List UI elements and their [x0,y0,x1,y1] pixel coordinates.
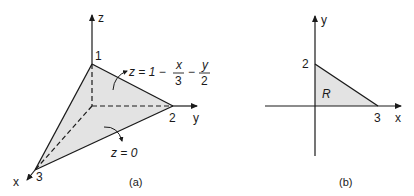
x-axis-2d-label: x [395,111,401,125]
frac2-numerator: y [201,58,209,72]
frac1-numerator: x [175,58,183,72]
figure-b-caption: (b) [339,176,352,188]
base-equation: z = 0 [110,146,138,160]
frac1-denominator: 3 [175,74,182,88]
region-label: R [322,87,331,101]
y-intercept-2d-label: 2 [302,57,309,71]
diagram-canvas: z y x 1 2 3 z = 1 − x 3 − y 2 z = 0 (a) … [0,0,414,196]
figure-a-caption: (a) [129,176,142,188]
x-axis [27,170,35,180]
figure-b-2d-region: y x 2 3 R (b) [265,13,401,188]
plane-face [35,64,173,170]
figure-a-3d-tetrahedron: z y x 1 2 3 z = 1 − x 3 − y 2 z = 0 (a) [13,11,210,189]
z-intercept-label: 1 [95,49,102,63]
z-axis-label: z [98,11,104,25]
x-intercept-label: 3 [36,170,43,184]
plane-equation: z = 1 − x 3 − y 2 [128,58,210,88]
y-intercept-label: 2 [169,111,176,125]
x-intercept-2d-label: 3 [374,111,381,125]
y-axis-label: y [193,111,199,125]
svg-text:z = 1 −: z = 1 − [128,65,166,79]
frac2-denominator: 2 [201,74,208,88]
x-axis-label: x [13,175,19,189]
minus-sign: − [188,65,195,79]
y-axis-2d-label: y [321,13,327,27]
